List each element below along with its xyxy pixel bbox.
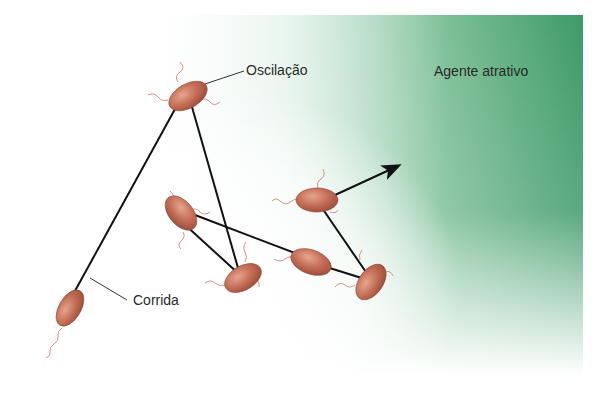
attractant-label: Agente atrativo [434,63,528,79]
bacterium-start [50,285,89,331]
bacterium-6 [296,188,338,212]
tumble-label: Oscilação [246,62,307,78]
chemotaxis-diagram [0,0,607,402]
run-label: Corrida [133,292,179,308]
run-leader [90,278,127,300]
